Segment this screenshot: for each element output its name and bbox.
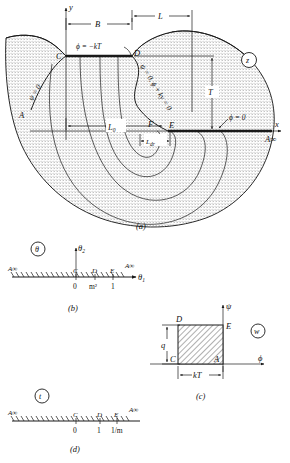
dimension-kt-label: kT	[193, 370, 203, 380]
dimension-l-label: L	[157, 11, 163, 21]
t-end-left: A∞	[7, 409, 17, 417]
caption-a: (a)	[136, 221, 146, 231]
theta2-axis-label: θ2	[78, 243, 85, 254]
w-corner-d: D	[175, 314, 183, 324]
point-label-d: D	[133, 48, 141, 58]
theta1-axis-label: θ1	[138, 272, 145, 283]
point-label-c: C	[56, 51, 62, 61]
theta-point-c: C	[73, 267, 78, 275]
dimension-ldr: Ldr	[140, 132, 170, 147]
x-axis-label: x	[274, 119, 279, 129]
t-hatching	[11, 416, 129, 421]
t-end-right: A∞	[128, 406, 138, 414]
point-label-a: A	[18, 110, 25, 120]
caption-b: (b)	[68, 303, 78, 313]
theta-tick-label-m2: m²	[89, 282, 98, 291]
w-corner-c: C	[170, 354, 176, 364]
theta-point-d: D	[91, 267, 97, 275]
svg-text:θ: θ	[35, 245, 39, 254]
psi-axis-label: ψ	[226, 301, 232, 311]
y-axis-label: y	[68, 2, 73, 12]
point-label-e: E	[168, 120, 175, 130]
theta-hatching	[11, 272, 124, 277]
dimension-b-label: B	[95, 19, 100, 29]
plane-label-theta: θ	[31, 242, 45, 256]
t-tick-label-0: 0	[73, 426, 77, 435]
dimension-kt: kT	[178, 366, 223, 381]
point-label-a-infinity: A∞	[264, 134, 276, 144]
svg-text:w: w	[254, 327, 260, 336]
svg-text:ϕ = 0: ϕ = 0	[229, 113, 246, 122]
panel-c: ϕ ψ D E C A q kT w (c)	[150, 301, 265, 401]
theta-point-e: E	[109, 267, 115, 275]
panel-a: y x B L	[6, 2, 281, 231]
t-tick-label-1overm: 1/m	[111, 426, 123, 435]
point-label-f: F	[147, 119, 154, 129]
w-corner-e: E	[225, 321, 232, 331]
plane-label-t: t	[35, 389, 49, 403]
figure-root: y x B L	[0, 0, 290, 463]
theta-tick-label-1: 1	[111, 282, 115, 291]
theta-tick-label-0: 0	[73, 282, 77, 291]
caption-d: (d)	[70, 444, 80, 454]
plane-label-w: w	[251, 324, 265, 338]
svg-text:ϕ = −kT: ϕ = −kT	[76, 42, 102, 51]
plane-label-z: z	[242, 53, 257, 68]
caption-c: (c)	[196, 391, 206, 401]
panel-b: θ2 θ1 C D E 0 m² 1 A∞ A∞ θ (b)	[7, 242, 145, 313]
phi-axis-label: ϕ	[258, 353, 263, 363]
w-corner-a: A	[213, 354, 220, 364]
theta-end-right: A∞	[124, 262, 134, 270]
t-point-d: D	[96, 411, 102, 419]
theta-end-left: A∞	[7, 265, 17, 273]
t-point-e: E	[113, 411, 119, 419]
panel-d: C D E 0 1 1/m A∞ A∞ t (d)	[7, 389, 140, 454]
t-point-c: C	[73, 411, 78, 419]
t-tick-label-1: 1	[97, 426, 101, 435]
